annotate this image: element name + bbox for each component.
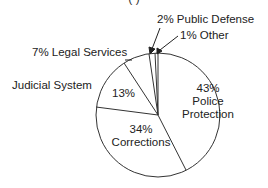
- label-police: 43% Police Protection: [178, 82, 238, 121]
- label-other: 1% Other: [180, 29, 229, 42]
- label-legal: 7% Legal Services: [32, 46, 127, 59]
- label-corrections: 34% Corrections: [108, 123, 174, 149]
- label-judicial: Judicial System: [12, 79, 92, 92]
- label-public-defense: 2% Public Defense: [157, 13, 254, 26]
- label-judicial-pct: 13%: [112, 87, 135, 100]
